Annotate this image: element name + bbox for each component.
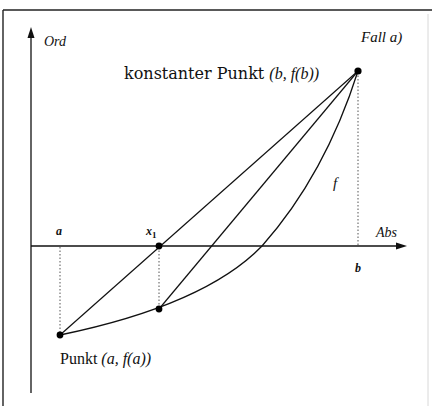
tick-label-x1: x1	[145, 224, 157, 240]
case-label: Fall a)	[360, 29, 402, 46]
y-axis	[28, 27, 35, 393]
tick-label-a: a	[56, 224, 62, 238]
x-axis	[31, 243, 407, 250]
point-b-fb	[354, 67, 361, 74]
point-x1-axis	[156, 243, 163, 250]
fixed-point-label: konstanter Punkt (b, f(b))	[124, 64, 319, 83]
function-label: f	[333, 175, 339, 191]
point-x1-fx1	[156, 306, 163, 313]
y-axis-label: Ord	[44, 34, 67, 49]
x-axis-arrow-icon	[396, 243, 407, 250]
start-point-label: Punkt (a, f(a))	[60, 350, 151, 368]
secant-line-1	[60, 71, 358, 335]
point-a-fa	[57, 332, 64, 339]
tick-label-b: b	[355, 261, 361, 275]
x-axis-label: Abs	[375, 225, 398, 240]
secant-line-2	[159, 71, 358, 309]
y-axis-arrow-icon	[28, 27, 35, 38]
secant-method-diagram: Ord Fall a) Abs f a x1 b konstanter Punk…	[0, 0, 432, 406]
